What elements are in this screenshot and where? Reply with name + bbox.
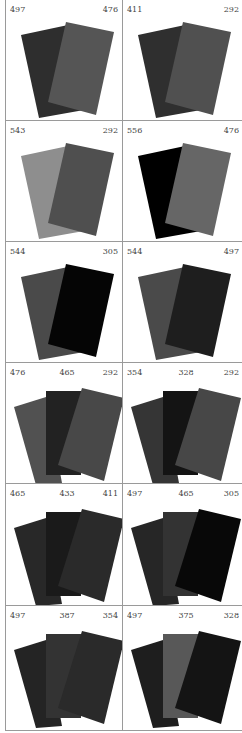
value-label: 305: [103, 248, 118, 256]
value-label: 375: [178, 612, 193, 620]
value-label: 292: [224, 369, 239, 377]
value-label: 411: [127, 6, 142, 14]
value-label: 305: [224, 490, 239, 498]
value-label: 497: [224, 248, 239, 256]
swatch-cell: 354328292: [122, 362, 242, 483]
swatch-cell: 411292: [122, 0, 242, 120]
value-label: 292: [103, 127, 118, 135]
value-label: 544: [10, 248, 25, 256]
card-stack: [6, 363, 122, 484]
card-stack: [123, 363, 242, 484]
card-stack: [6, 242, 122, 363]
card-stack: [123, 0, 242, 120]
value-label: 354: [103, 612, 118, 620]
value-label: 465: [59, 369, 74, 377]
card-stack: [123, 121, 242, 242]
value-label: 497: [10, 612, 25, 620]
value-label: 497: [127, 612, 142, 620]
card-stack: [123, 484, 242, 606]
card-grid: 4974764112925432925564765443055444974764…: [5, 0, 242, 731]
value-label: 476: [10, 369, 25, 377]
card-stack: [6, 0, 122, 120]
value-label: 387: [59, 612, 74, 620]
value-label: 476: [103, 6, 118, 14]
value-label: 328: [224, 612, 239, 620]
swatch-cell: 544305: [6, 241, 122, 362]
card-stack: [123, 242, 242, 363]
card-stack: [6, 484, 122, 606]
value-label: 497: [127, 490, 142, 498]
value-label: 465: [10, 490, 25, 498]
value-label: 476: [224, 127, 239, 135]
swatch-cell: 544497: [122, 241, 242, 362]
card-stack: [6, 606, 122, 732]
swatch-cell: 497476: [6, 0, 122, 120]
value-label: 292: [103, 369, 118, 377]
value-label: 497: [10, 6, 25, 14]
value-label: 556: [127, 127, 142, 135]
value-label: 354: [127, 369, 142, 377]
swatch-cell: 497375328: [122, 605, 242, 731]
swatch-cell: 476465292: [6, 362, 122, 483]
swatch-cell: 497465305: [122, 483, 242, 605]
swatch-cell: 556476: [122, 120, 242, 241]
value-label: 433: [59, 490, 74, 498]
value-label: 465: [178, 490, 193, 498]
value-label: 292: [224, 6, 239, 14]
value-label: 328: [178, 369, 193, 377]
value-label: 411: [103, 490, 118, 498]
swatch-cell: 497387354: [6, 605, 122, 731]
value-label: 543: [10, 127, 25, 135]
card-stack: [123, 606, 242, 732]
swatch-cell: 543292: [6, 120, 122, 241]
value-label: 544: [127, 248, 142, 256]
card-stack: [6, 121, 122, 242]
swatch-cell: 465433411: [6, 483, 122, 605]
